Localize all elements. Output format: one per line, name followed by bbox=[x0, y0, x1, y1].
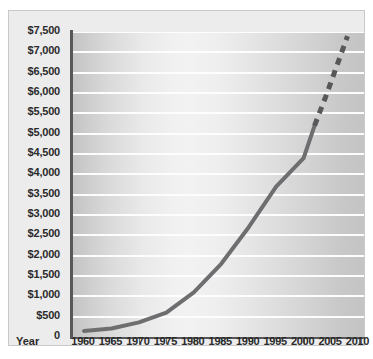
y-axis-line bbox=[70, 30, 73, 339]
chart-container: 0$500$1,000$1,500$2,000$2,500$3,000$3,50… bbox=[0, 0, 373, 359]
line-series-projected bbox=[315, 36, 348, 125]
y-axis-tick-label: $3,500 bbox=[2, 188, 60, 199]
y-axis-tick-label: $4,500 bbox=[2, 147, 60, 158]
y-axis-tick-label: $6,500 bbox=[2, 66, 60, 77]
y-axis-tick-label: $3,000 bbox=[2, 208, 60, 219]
plot-area bbox=[73, 32, 364, 337]
y-axis-tick-label: $7,000 bbox=[2, 45, 60, 56]
y-axis-tick-label: $2,500 bbox=[2, 228, 60, 239]
chart-frame bbox=[8, 10, 365, 346]
data-series-group bbox=[73, 32, 364, 337]
y-axis-tick-label: $2,000 bbox=[2, 249, 60, 260]
x-axis-tick-label: 2010 bbox=[341, 336, 373, 347]
y-axis-tick-labels: 0$500$1,000$1,500$2,000$2,500$3,000$3,50… bbox=[0, 0, 60, 359]
x-axis-title: Year bbox=[16, 336, 39, 347]
line-series-actual bbox=[84, 126, 315, 331]
y-axis-tick-label: $1,500 bbox=[2, 269, 60, 280]
y-axis-tick-label: $1,000 bbox=[2, 289, 60, 300]
y-axis-tick-label: $6,000 bbox=[2, 86, 60, 97]
y-axis-tick-label: $4,000 bbox=[2, 167, 60, 178]
y-axis-tick-label: $7,500 bbox=[2, 25, 60, 36]
y-axis-tick-label: $5,500 bbox=[2, 106, 60, 117]
y-axis-tick-label: $5,000 bbox=[2, 127, 60, 138]
y-axis-tick-label: $500 bbox=[2, 310, 60, 321]
